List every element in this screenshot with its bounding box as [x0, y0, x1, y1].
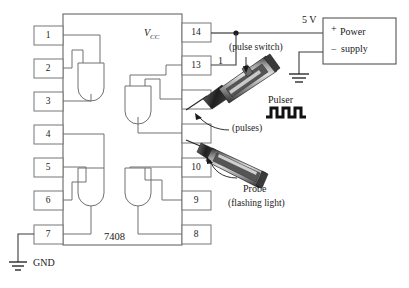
pin-label-4: 4 [35, 130, 61, 140]
pin-label-5: 5 [35, 163, 61, 173]
pulser-annotation: Pulser [268, 95, 293, 105]
probe-annotation-line2: (flashing light) [228, 199, 285, 209]
probe-annotation-line1: Probe [243, 184, 266, 194]
vcc-supply-wire [211, 30, 323, 35]
pin-label-14: 14 [183, 28, 209, 38]
supply-box-line1: Power [340, 27, 366, 37]
pin-label-1: 1 [35, 31, 61, 41]
supply-plus-label: + [331, 24, 337, 34]
pulses-annotation: (pulses) [232, 124, 262, 134]
vcc-subscript: CC [150, 33, 159, 41]
right-pin-boxes [182, 23, 211, 244]
vcc-label: VCC [144, 28, 159, 41]
supply-voltage-label: 5 V [302, 15, 317, 25]
gnd-label: GND [33, 258, 55, 268]
supply-minus-label: − [331, 45, 337, 55]
ic-part-number: 7408 [104, 232, 125, 243]
ic-body [63, 14, 182, 245]
pin-label-10: 10 [183, 163, 209, 173]
pin-label-6: 6 [35, 196, 61, 206]
supply-box-line2: supply [341, 44, 368, 54]
pin-label-9: 9 [183, 196, 209, 206]
wire-marker-one: 1 [218, 56, 223, 66]
gnd-wire [18, 234, 34, 262]
and-gate-3 [78, 168, 104, 206]
circuit-diagram-canvas: 1 2 3 4 5 6 7 14 13 10 9 8 VCC 7408 GND … [0, 0, 409, 288]
pin-label-13: 13 [183, 61, 209, 71]
supply-negative-wire [299, 52, 323, 74]
pulse-switch-annotation: (pulse switch) [229, 43, 283, 53]
pin-label-8: 8 [183, 230, 209, 240]
gnd-symbol [9, 262, 27, 270]
supply-gnd-symbol [289, 74, 309, 82]
pin-label-2: 2 [35, 64, 61, 74]
pin-label-7: 7 [35, 230, 61, 240]
pulse-waveform-icon [266, 108, 306, 117]
and-gate-4 [125, 168, 151, 206]
pin-label-3: 3 [35, 97, 61, 107]
